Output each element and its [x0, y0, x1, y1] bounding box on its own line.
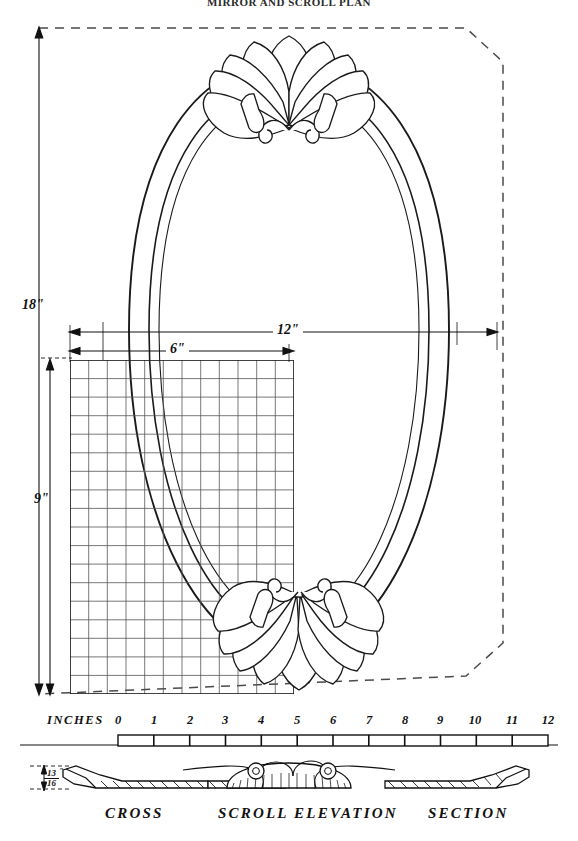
- dimension-9-inch-vertical: [41, 358, 72, 695]
- scale-tick-label-9: 9: [430, 713, 450, 728]
- scale-tick-label-1: 1: [144, 713, 164, 728]
- scale-tick-label-7: 7: [359, 713, 379, 728]
- extension-lines: [70, 322, 457, 362]
- drawing-sheet: MIRROR AND SCROLL PLAN: [0, 0, 578, 841]
- caption-scroll-elevation: SCROLL ELEVATION: [218, 805, 398, 822]
- caption-cross: CROSS: [105, 805, 164, 822]
- scale-tick-label-12: 12: [537, 713, 559, 728]
- inch-mark: ": [59, 768, 63, 776]
- bottom-scallop-shell: [213, 582, 383, 690]
- scale-tick-label-5: 5: [287, 713, 307, 728]
- scale-tick-label-2: 2: [180, 713, 200, 728]
- scale-title: INCHES: [47, 713, 104, 728]
- inch-scale-ruler: [20, 735, 558, 746]
- thickness-label-13-16: 13 16 ": [44, 769, 59, 788]
- thickness-denominator: 16: [44, 778, 59, 788]
- scale-tick-label-4: 4: [251, 713, 271, 728]
- scale-tick-label-3: 3: [215, 713, 235, 728]
- dimension-label-12in: 12": [273, 322, 303, 338]
- dimension-label-18in: 18": [22, 297, 44, 313]
- top-scallop-shell: [203, 36, 374, 138]
- section-right: [385, 766, 529, 788]
- caption-section: SECTION: [428, 805, 508, 822]
- scale-tick-label-6: 6: [323, 713, 343, 728]
- scale-tick-label-0: 0: [108, 713, 128, 728]
- dimension-label-6in: 6": [166, 341, 189, 357]
- scale-tick-label-10: 10: [464, 713, 486, 728]
- scale-tick-label-8: 8: [395, 713, 415, 728]
- thickness-numerator: 13: [44, 769, 59, 778]
- dimension-18-inch-vertical: [35, 27, 43, 695]
- page-title: MIRROR AND SCROLL PLAN: [0, 0, 578, 8]
- dimension-label-9in: 9": [34, 491, 49, 507]
- scale-tick-label-11: 11: [501, 713, 523, 728]
